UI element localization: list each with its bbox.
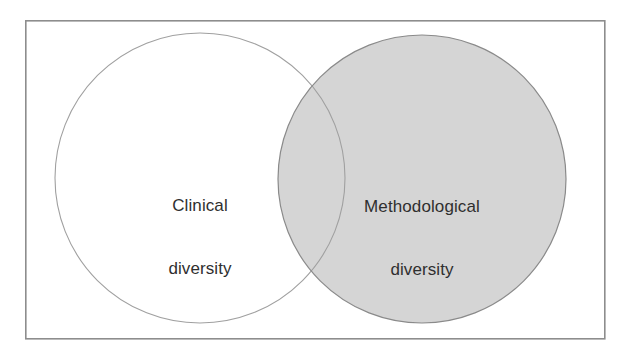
label-clinical-diversity: Clinical diversity [90, 153, 310, 321]
venn-diagram-figure: Clinical diversity Methodological divers… [0, 0, 617, 358]
label-methodological-line-2: diversity [312, 259, 532, 280]
label-methodological-line-1: Methodological [312, 196, 532, 217]
label-methodological-diversity: Methodological diversity [312, 154, 532, 322]
label-clinical-line-2: diversity [90, 258, 310, 279]
label-clinical-line-1: Clinical [90, 195, 310, 216]
